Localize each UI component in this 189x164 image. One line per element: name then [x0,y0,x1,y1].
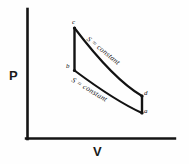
state-point-label-a: a [144,108,148,115]
pv-diagram-canvas [0,0,189,164]
y-axis-label-pressure: P [9,69,18,82]
state-point-label-c: c [72,19,75,26]
pv-diagram-figure: P V c b d a S = constant S = constant [0,0,189,164]
vertex-dot-c [73,26,76,29]
x-axis-label-volume: V [93,145,102,158]
state-point-label-d: d [144,90,148,97]
state-point-label-b: b [66,63,70,70]
vertex-dot-b [73,69,76,72]
